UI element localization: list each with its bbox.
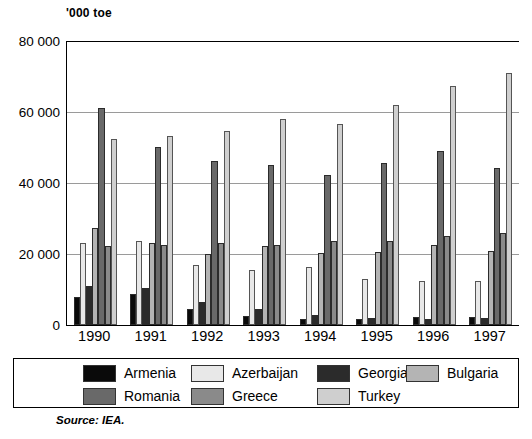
bar-series-container xyxy=(67,41,519,325)
legend-swatch-azerbaijan xyxy=(191,365,224,382)
bar-turkey-1992 xyxy=(224,131,230,325)
bar-group xyxy=(237,41,294,325)
legend-swatch-georgia xyxy=(317,365,350,382)
y-axis-tick-label: 20 000 xyxy=(0,247,60,262)
x-axis-tick-label: 1997 xyxy=(474,328,506,344)
legend-item-romania: Romania xyxy=(83,387,180,405)
legend-item-greece: Greece xyxy=(191,387,278,405)
chart-legend: ArmeniaAzerbaijanGeorgiaBulgaria Romania… xyxy=(13,358,519,408)
x-axis-tick-label: 1992 xyxy=(191,328,223,344)
legend-label: Bulgaria xyxy=(447,365,498,381)
legend-item-bulgaria: Bulgaria xyxy=(406,364,498,382)
legend-swatch-armenia xyxy=(83,365,116,382)
legend-label: Armenia xyxy=(124,365,176,381)
plot-area xyxy=(66,41,519,326)
y-axis-tick-labels: 80 00060 00040 00020 0000 xyxy=(0,41,60,325)
legend-swatch-greece xyxy=(191,388,224,405)
legend-row: ArmeniaAzerbaijanGeorgiaBulgaria xyxy=(14,361,518,385)
bar-turkey-1997 xyxy=(506,73,512,325)
x-axis-tick-label: 1990 xyxy=(78,328,110,344)
legend-item-turkey: Turkey xyxy=(317,387,400,405)
bar-chart-figure: '000 toe 80 00060 00040 00020 0000 19901… xyxy=(0,0,532,439)
bar-group xyxy=(67,41,124,325)
legend-row: RomaniaGreeceTurkey xyxy=(14,384,518,408)
legend-swatch-bulgaria xyxy=(406,365,439,382)
x-axis-tick-label: 1994 xyxy=(304,328,336,344)
bar-turkey-1996 xyxy=(450,86,456,325)
legend-swatch-romania xyxy=(83,388,116,405)
bar-turkey-1993 xyxy=(280,119,286,325)
legend-label: Georgia xyxy=(358,365,408,381)
x-axis-tick-label: 1991 xyxy=(135,328,167,344)
bar-group xyxy=(124,41,181,325)
x-axis-tick-label: 1996 xyxy=(417,328,449,344)
bar-group xyxy=(293,41,350,325)
bar-turkey-1991 xyxy=(167,136,173,325)
bar-turkey-1994 xyxy=(337,124,343,325)
y-axis-tick-label: 40 000 xyxy=(0,176,60,191)
legend-swatch-turkey xyxy=(317,388,350,405)
bar-turkey-1995 xyxy=(393,105,399,325)
y-axis-tick-label: 80 000 xyxy=(0,34,60,49)
legend-item-azerbaijan: Azerbaijan xyxy=(191,364,298,382)
source-note: Source: IEA. xyxy=(56,414,124,426)
axis-unit-label: '000 toe xyxy=(66,6,112,20)
bar-group xyxy=(350,41,407,325)
bar-group xyxy=(180,41,237,325)
legend-label: Romania xyxy=(124,388,180,404)
bar-group xyxy=(406,41,463,325)
x-axis-tick-label: 1993 xyxy=(248,328,280,344)
bar-turkey-1990 xyxy=(111,139,117,325)
bar-group xyxy=(463,41,520,325)
y-axis-tick-label: 0 xyxy=(0,318,60,333)
legend-item-georgia: Georgia xyxy=(317,364,408,382)
x-axis-tick-label: 1995 xyxy=(361,328,393,344)
legend-item-armenia: Armenia xyxy=(83,364,176,382)
x-axis-tick-labels: 19901991199219931994199519961997 xyxy=(66,328,518,350)
y-axis-tick-label: 60 000 xyxy=(0,105,60,120)
legend-label: Greece xyxy=(232,388,278,404)
legend-label: Turkey xyxy=(358,388,400,404)
legend-label: Azerbaijan xyxy=(232,365,298,381)
